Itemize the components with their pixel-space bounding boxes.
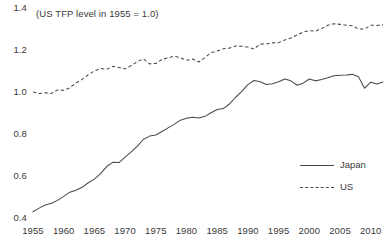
legend-swatch-dashed-icon bbox=[300, 187, 334, 188]
legend-label-japan: Japan bbox=[340, 159, 366, 170]
plot-area bbox=[0, 0, 390, 244]
legend-item-us: US bbox=[300, 177, 386, 199]
legend-item-japan: Japan bbox=[300, 155, 386, 177]
legend-label-us: US bbox=[340, 181, 353, 192]
legend-swatch-solid-icon bbox=[300, 165, 334, 166]
tfp-line-chart: (US TFP level in 1955 = 1.0) 1.41.21.00.… bbox=[0, 0, 390, 244]
chart-legend: Japan US bbox=[300, 155, 386, 201]
series-line-us bbox=[33, 24, 383, 94]
